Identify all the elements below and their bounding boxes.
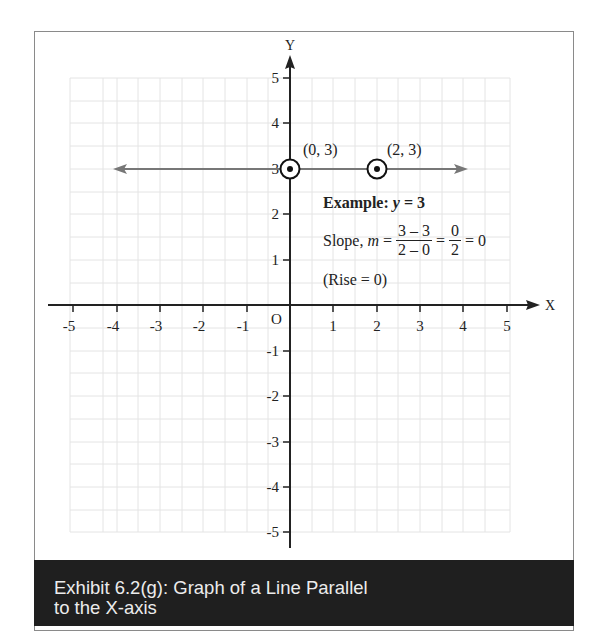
point-2-3 <box>368 160 387 179</box>
rise-note: (Rise = 0) <box>323 271 387 289</box>
x-axis <box>48 300 540 310</box>
svg-text:-5: -5 <box>267 524 280 540</box>
caption-line-1: Exhibit 6.2(g): Graph of a Line Parallel <box>54 578 574 598</box>
fraction-denominator: 2 – 0 <box>398 241 430 259</box>
origin-label: O <box>271 311 282 327</box>
svg-text:-4: -4 <box>107 318 120 334</box>
slope-result: = 0 <box>465 232 486 250</box>
svg-text:4: 4 <box>272 115 280 131</box>
example-var: y <box>393 194 400 211</box>
svg-text:-1: -1 <box>267 343 280 359</box>
x-axis-arrow-icon <box>526 300 540 310</box>
svg-text:-2: -2 <box>193 318 206 334</box>
fraction-rise-run: 3 – 3 2 – 0 <box>396 222 432 259</box>
equals-sign: = <box>436 232 445 250</box>
svg-text:2: 2 <box>373 318 381 334</box>
svg-text:1: 1 <box>272 252 280 268</box>
slope-prefix: Slope, <box>323 232 363 250</box>
x-axis-label: X <box>545 298 555 313</box>
svg-text:-3: -3 <box>267 434 280 450</box>
example-prefix: Example: <box>323 194 389 211</box>
fraction-numerator: 0 <box>449 222 461 241</box>
slope-var: m <box>367 232 379 250</box>
caption-line-2: to the X-axis <box>54 598 574 618</box>
point-0-3 <box>281 160 300 179</box>
y-axis-label: Y <box>285 38 295 53</box>
fraction-numerator: 3 – 3 <box>396 222 432 241</box>
fraction-simplified: 0 2 <box>449 222 461 259</box>
figure-caption: Exhibit 6.2(g): Graph of a Line Parallel… <box>34 560 574 626</box>
y-axis-arrow-icon <box>285 55 295 69</box>
svg-text:-3: -3 <box>150 318 163 334</box>
svg-text:3: 3 <box>416 318 424 334</box>
svg-text:-2: -2 <box>267 388 280 404</box>
svg-text:5: 5 <box>272 70 280 86</box>
svg-text:-5: -5 <box>63 318 76 334</box>
slope-formula: Slope, m = 3 – 3 2 – 0 = 0 2 = 0 <box>323 222 486 259</box>
svg-text:-1: -1 <box>237 318 250 334</box>
svg-text:2: 2 <box>272 206 280 222</box>
svg-text:5: 5 <box>503 318 511 334</box>
svg-text:1: 1 <box>329 318 337 334</box>
x-tick-labels: -5 -4 -3 -2 -1 1 2 3 4 5 <box>63 318 511 334</box>
example-eq: = 3 <box>400 194 425 211</box>
slope-equals: = <box>383 232 392 250</box>
fraction-denominator: 2 <box>451 241 459 259</box>
svg-text:-4: -4 <box>267 479 280 495</box>
svg-text:4: 4 <box>459 318 467 334</box>
point-label-2-3: (2, 3) <box>387 141 422 159</box>
example-title: Example: y = 3 <box>323 194 425 212</box>
y-axis <box>285 55 295 548</box>
point-label-0-3: (0, 3) <box>303 141 338 159</box>
